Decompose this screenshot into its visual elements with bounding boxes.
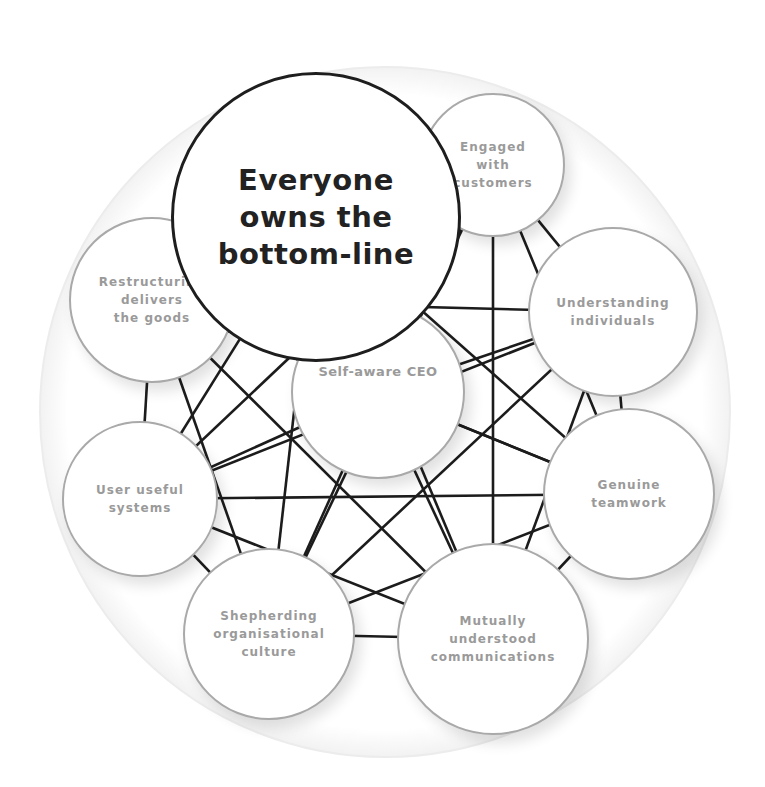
node-label: Engaged with customers xyxy=(453,138,532,192)
node-label: Understanding individuals xyxy=(556,294,669,330)
stakeholder-network-diagram: Engaged with customersUnderstanding indi… xyxy=(0,0,765,787)
node-understanding-individuals: Understanding individuals xyxy=(528,227,698,397)
node-label: Shepherding organisational culture xyxy=(213,607,325,661)
node-user-useful-systems: User useful systems xyxy=(62,421,218,577)
node-bottom-line: Everyone owns the bottom-line xyxy=(171,72,461,362)
node-genuine-teamwork: Genuine teamwork xyxy=(543,408,715,580)
node-label: Genuine teamwork xyxy=(591,476,667,512)
node-shepherding-culture: Shepherding organisational culture xyxy=(183,548,355,720)
node-label: Mutually understood communications xyxy=(431,612,556,666)
node-label: Self-aware CEO xyxy=(318,363,437,381)
node-label: Everyone owns the bottom-line xyxy=(218,162,414,273)
node-mutually-understood-communications: Mutually understood communications xyxy=(397,543,589,735)
node-label: User useful systems xyxy=(96,481,184,517)
